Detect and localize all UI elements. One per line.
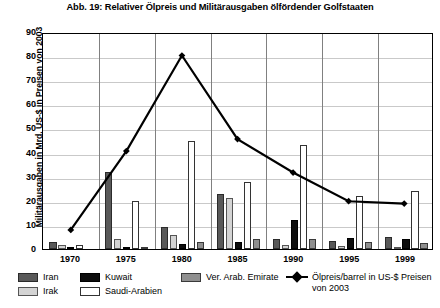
kuwait-swatch xyxy=(80,273,100,282)
oil-price-line-series xyxy=(43,34,432,249)
y-axis-tick-label: 90 xyxy=(8,27,36,37)
chart-title: Abb. 19: Relativer Ölpreis und Militärau… xyxy=(0,2,440,12)
y-axis-tick-label: 0 xyxy=(8,244,36,254)
plot-area xyxy=(42,33,433,250)
legend-label-oil-price-line1: Ölpreis/barrel in US-$ Preisen xyxy=(312,272,432,282)
legend-item-oil-price[interactable]: Ölpreis/barrel in US-$ Preisen von 2003 xyxy=(286,272,440,294)
legend-label-kuwait: Kuwait xyxy=(105,272,132,283)
legend-item-saudi-arabien[interactable]: Saudi-Arabien xyxy=(80,286,162,297)
legend-label-saudi-arabien: Saudi-Arabien xyxy=(105,286,162,297)
y-axis-tick-label: 80 xyxy=(8,51,36,61)
saudi-arabien-swatch xyxy=(80,287,100,296)
legend-item-kuwait[interactable]: Kuwait xyxy=(80,272,132,283)
figure-container: Abb. 19: Relativer Ölpreis und Militärau… xyxy=(0,0,440,308)
y-axis-tick-label: 10 xyxy=(8,220,36,230)
x-axis-tick-label: 1990 xyxy=(263,254,323,264)
legend-item-uae[interactable]: Ver. Arab. Emirate xyxy=(181,272,279,283)
irak-swatch xyxy=(18,287,38,296)
legend: Iran Irak Kuwait Saudi-Arabien Ver. Arab… xyxy=(18,272,436,306)
y-axis-tick-label: 40 xyxy=(8,148,36,158)
x-axis-tick-label: 1970 xyxy=(40,254,100,264)
y-axis-tick-label: 20 xyxy=(8,196,36,206)
legend-item-irak[interactable]: Irak xyxy=(18,286,58,297)
line-marker-icon xyxy=(286,272,308,281)
legend-label-irak: Irak xyxy=(43,286,58,297)
x-axis-tick-label: 1985 xyxy=(208,254,268,264)
iran-swatch xyxy=(18,273,38,282)
x-axis-tick-label: 1975 xyxy=(96,254,156,264)
oil-price-marker-1999 xyxy=(401,200,408,207)
y-axis-tick-label: 70 xyxy=(8,75,36,85)
y-axis-tick-label: 50 xyxy=(8,123,36,133)
x-axis-tick-label: 1999 xyxy=(375,254,435,264)
x-axis-tick-label: 1980 xyxy=(152,254,212,264)
legend-label-iran: Iran xyxy=(43,272,59,283)
oil-price-line xyxy=(71,56,404,230)
legend-label-oil-price-line2: von 2003 xyxy=(312,283,349,293)
legend-label-oil-price: Ölpreis/barrel in US-$ Preisen von 2003 xyxy=(312,272,440,294)
uae-swatch xyxy=(181,273,201,282)
legend-item-iran[interactable]: Iran xyxy=(18,272,59,283)
y-axis-tick-label: 60 xyxy=(8,99,36,109)
legend-label-uae: Ver. Arab. Emirate xyxy=(206,272,279,283)
y-axis-tick-label: 30 xyxy=(8,172,36,182)
x-axis-tick-label: 1995 xyxy=(319,254,379,264)
